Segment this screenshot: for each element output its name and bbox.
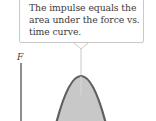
- callout-line-1: The impulse equals the: [29, 2, 145, 14]
- y-axis-label: F: [17, 52, 23, 62]
- callout-pointer: [74, 43, 88, 49]
- callout-text: The impulse equals the area under the fo…: [29, 2, 145, 39]
- impulse-diagram: The impulse equals the area under the fo…: [0, 0, 156, 121]
- callout-line-3: time curve.: [29, 26, 145, 38]
- callout-line-2: area under the force vs.: [29, 14, 145, 26]
- callout-box: The impulse equals the area under the fo…: [19, 0, 144, 43]
